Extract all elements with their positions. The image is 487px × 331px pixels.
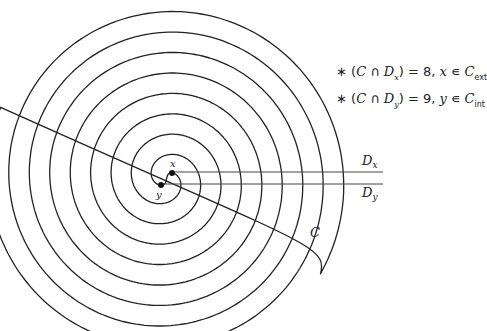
point-x-label: x [170, 158, 176, 169]
point-y-label: y [155, 189, 162, 200]
ray-d-x-label: Dx [361, 153, 378, 170]
ray-d-y-label: Dy [361, 185, 378, 202]
bullet: ∗ [336, 64, 347, 79]
curve-label: C [310, 225, 320, 240]
point-y [158, 182, 164, 188]
legend-item-dx: ∗ (C ∩ Dx) = 8, x ∊ Cext [336, 64, 487, 82]
point-x [169, 170, 175, 176]
legend-item-dy: ∗ (C ∩ Dy) = 9, y ∊ Cint [336, 91, 485, 109]
bullet: ∗ [336, 91, 347, 106]
